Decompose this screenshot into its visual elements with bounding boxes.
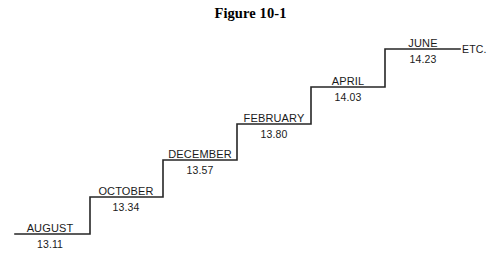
step-value-december: 13.57 xyxy=(130,164,270,176)
step-value-february: 13.80 xyxy=(204,128,344,140)
step-label-august: AUGUST xyxy=(0,222,120,234)
figure-container: Figure 10-1 AUGUST13.11OCTOBER13.34DECEM… xyxy=(0,0,501,267)
step-label-february: FEBRUARY xyxy=(204,112,344,124)
step-value-august: 13.11 xyxy=(0,238,120,250)
etc-annotation: ETC. xyxy=(462,43,487,55)
step-value-april: 14.03 xyxy=(278,91,418,103)
step-label-december: DECEMBER xyxy=(130,148,270,160)
step-label-april: APRIL xyxy=(278,75,418,87)
step-value-october: 13.34 xyxy=(56,201,196,213)
step-label-october: OCTOBER xyxy=(56,185,196,197)
